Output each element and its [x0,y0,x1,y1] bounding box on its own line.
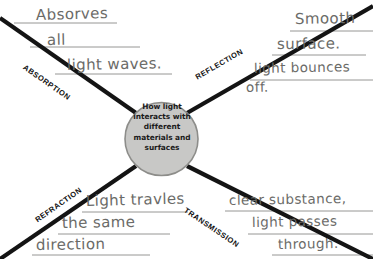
light-interaction-worksheet: How light interacts with different mater… [0,0,373,259]
center-prompt-line-1: How light [130,102,194,112]
answer-reflection-line-4: off. [246,81,269,95]
answer-transmission-line-2: light passes [252,215,337,230]
answer-reflection-line-3: light bounces [254,60,350,75]
answer-transmission-line-3: through. [278,237,339,252]
answer-absorption-line-2: all [47,33,66,48]
answer-absorption-line-3: light waves. [67,56,162,73]
center-prompt-line-5: surfaces [130,143,194,153]
center-prompt-line-3: different [130,122,194,132]
answer-reflection-line-2: surface. [277,36,341,52]
answer-absorption-line-1: Absorves [36,6,108,23]
center-prompt: How light interacts with different mater… [130,102,194,153]
answer-refraction-line-3: direction [36,237,106,253]
answer-refraction-line-2: the same [62,215,136,231]
answer-transmission-line-1: clear substance, [229,192,347,208]
center-prompt-line-4: materials and [130,133,194,143]
answer-reflection-line-1: Smooth [295,11,356,27]
center-prompt-line-2: interacts with [130,112,194,122]
answer-refraction-line-1: Light travles [86,191,185,209]
